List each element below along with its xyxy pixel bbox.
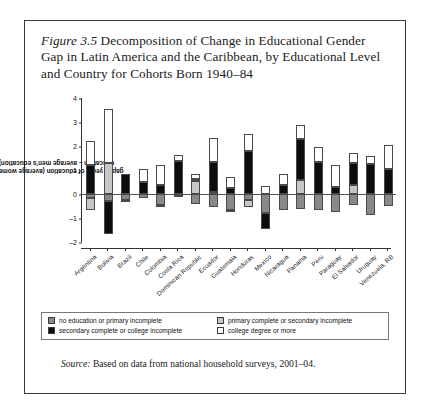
bar-segment — [244, 134, 253, 151]
bar-segment — [314, 194, 323, 210]
bar-segment — [331, 194, 340, 212]
bar-segment — [174, 161, 183, 195]
bar-group[interactable] — [331, 98, 340, 242]
bar-segment — [261, 186, 270, 194]
bar-segment — [296, 125, 305, 139]
bar-segment — [279, 174, 288, 185]
bar-segment — [156, 205, 165, 207]
bar-group[interactable] — [156, 98, 165, 242]
bar-segment — [86, 198, 95, 210]
bar-segment — [156, 165, 165, 184]
y-axis-title: gap in years of education (average women… — [31, 0, 181, 92]
bar-segment — [366, 164, 375, 194]
bar-segment — [86, 141, 95, 165]
x-axis-tick-label: Argentina — [72, 253, 97, 277]
bar-segment — [174, 155, 183, 161]
chart-plot: gap in years of education (average women… — [25, 92, 405, 322]
bar-segment — [261, 213, 270, 229]
bar-segment — [314, 162, 323, 194]
x-axis-tick — [212, 248, 213, 251]
bar-group[interactable] — [279, 98, 288, 242]
bar-segment — [191, 181, 200, 194]
x-axis-tick — [265, 248, 266, 251]
x-axis-line — [81, 248, 391, 249]
bar-segment — [191, 174, 200, 179]
bar-group[interactable] — [226, 98, 235, 242]
bar-segment — [349, 194, 358, 205]
y-axis-tick-label: 1 — [73, 167, 82, 174]
x-axis-tick — [195, 248, 196, 251]
bar-group[interactable] — [209, 98, 218, 242]
bar-segment — [226, 188, 235, 194]
bar-segment — [226, 194, 235, 210]
legend-swatch-icon — [48, 327, 55, 334]
legend-label: no education or primary incomplete — [59, 317, 162, 324]
x-axis-tick-label: Brazil — [116, 253, 133, 269]
bar-segment — [191, 179, 200, 181]
bar-segment — [384, 169, 393, 194]
bar-segment — [209, 192, 218, 194]
bar-segment — [349, 163, 358, 185]
bar-segment — [191, 194, 200, 204]
bar-group[interactable] — [244, 98, 253, 242]
figure-panel: Figure 3.5 Decomposition of Change in Ed… — [24, 20, 406, 394]
legend-item: no education or primary incomplete — [48, 317, 213, 324]
bar-segment — [174, 195, 183, 197]
bar-group[interactable] — [139, 98, 148, 242]
legend-swatch-icon — [48, 317, 55, 324]
x-axis-tick — [125, 248, 126, 251]
bar-group[interactable] — [296, 98, 305, 242]
x-axis-tick-label: Bolivia — [96, 253, 115, 271]
bar-segment — [104, 109, 113, 163]
bar-group[interactable] — [384, 98, 393, 242]
bar-segment — [121, 174, 130, 194]
bar-group[interactable] — [121, 98, 130, 242]
legend-item: secondary complete or college incomplete — [48, 327, 213, 334]
x-axis-tick — [370, 248, 371, 251]
bar-segment — [366, 194, 375, 214]
bar-segment — [209, 162, 218, 192]
x-axis-tick — [352, 248, 353, 251]
bar-group[interactable] — [366, 98, 375, 242]
bar-group[interactable] — [174, 98, 183, 242]
legend-item: college degree or more — [217, 327, 382, 334]
bar-group[interactable] — [261, 98, 270, 242]
bar-segment — [209, 138, 218, 162]
bar-segment — [209, 194, 218, 207]
bar-segment — [296, 180, 305, 194]
bar-group[interactable] — [104, 98, 113, 242]
bar-segment — [139, 169, 148, 182]
bar-segment — [104, 163, 113, 194]
bar-segment — [279, 194, 288, 210]
y-axis-tick-label: –2 — [69, 239, 82, 246]
bar-group[interactable] — [86, 98, 95, 242]
bar-segment — [349, 153, 358, 163]
legend-swatch-icon — [217, 327, 224, 334]
bar-segment — [244, 151, 253, 194]
bar-segment — [86, 165, 95, 194]
y-axis-tick-label: 0 — [73, 191, 82, 198]
x-axis-tick — [177, 248, 178, 251]
source-text: Based on data from national household su… — [90, 358, 315, 369]
bar-segment — [226, 210, 235, 212]
bar-segment — [139, 194, 148, 198]
x-axis-tick — [107, 248, 108, 251]
bar-segment — [104, 194, 113, 201]
x-axis-tick — [317, 248, 318, 251]
bar-segment — [139, 182, 148, 194]
x-axis-tick — [230, 248, 231, 251]
plot-area: –2–101234 — [81, 98, 396, 242]
y-axis-tick-label: 4 — [73, 95, 82, 102]
x-axis-tick — [387, 248, 388, 251]
x-axis-tick — [160, 248, 161, 251]
bar-group[interactable] — [314, 98, 323, 242]
x-axis-tick — [300, 248, 301, 251]
bar-group[interactable] — [191, 98, 200, 242]
bar-segment — [121, 200, 130, 202]
legend-label: secondary complete or college incomplete — [59, 327, 182, 334]
bar-group[interactable] — [349, 98, 358, 242]
bar-segment — [244, 200, 253, 207]
source-label: Source: — [61, 358, 90, 369]
bar-segment — [226, 177, 235, 188]
bar-segment — [384, 145, 393, 169]
